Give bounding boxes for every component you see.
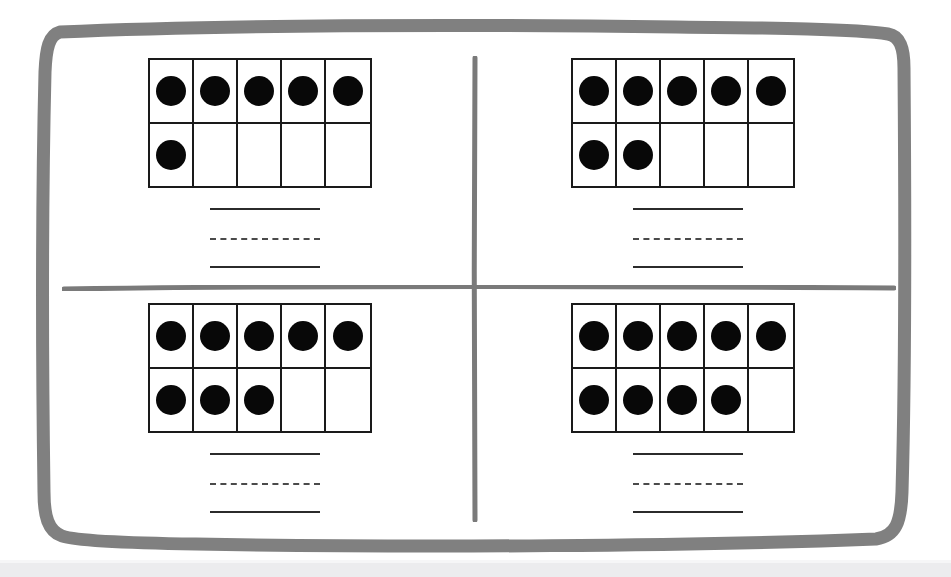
ten-frame-cell [573,124,617,186]
problem-total: 7 [570,267,571,268]
counter-dot [579,385,609,415]
ten-frame-cell [617,60,661,122]
counter-dot [711,385,741,415]
ten-frame-top-row [150,305,370,369]
ten-frame-bottom-row [573,124,793,186]
counter-dot [333,76,363,106]
ten-frame-cell [238,369,282,431]
counter-dot [288,76,318,106]
ten-frame-top-row [573,305,793,369]
ten-frame-cell [194,369,238,431]
ten-frame-cell [282,305,326,367]
ten-frame-cell [238,305,282,367]
counter-dot [156,76,186,106]
counter-dot [667,385,697,415]
answer-blank-sum[interactable] [210,511,320,513]
ten-frame-bottom-row [573,369,793,431]
ten-frame-cell [150,124,194,186]
ten-frame-cell [326,60,370,122]
ten-frame-cell [573,60,617,122]
counter-dot-empty [711,140,741,170]
answer-spacer [210,240,320,266]
ten-frame-cell [705,305,749,367]
counter-dot [244,321,274,351]
ten-frame-cell [617,369,661,431]
ten-frame-bottom-row [150,124,370,186]
counter-dot [623,385,653,415]
counter-dot [623,76,653,106]
answer-spacer [210,485,320,511]
counter-dot [756,76,786,106]
ten-frame-cell-empty [238,124,282,186]
answer-lines [210,453,320,513]
ten-frame-cell [749,305,793,367]
counter-dot-empty [288,385,318,415]
ten-frame-cell [661,60,705,122]
ten-frame-cell-empty [661,124,705,186]
ten-frame-cell [705,60,749,122]
counter-dot [156,321,186,351]
ten-frame [571,58,795,188]
counter-dot [200,321,230,351]
counter-dot [579,76,609,106]
counter-dot-empty [756,140,786,170]
ten-frame-cell-empty [705,124,749,186]
ten-frame-cell [326,305,370,367]
ten-frame [571,303,795,433]
problem-bottom-left: 8 [148,303,372,513]
answer-blank-sum[interactable] [633,511,743,513]
answer-spacer [633,210,743,238]
answer-blank-sum[interactable] [210,266,320,268]
counter-dot [200,385,230,415]
counter-dot-empty [288,140,318,170]
problem-total: 6 [147,267,148,268]
ten-frame [148,58,372,188]
counter-dot [623,140,653,170]
ten-frame-cell-empty [326,124,370,186]
answer-lines [633,453,743,513]
ten-frame-cell [617,305,661,367]
answer-spacer [210,455,320,483]
ten-frame-cell-empty [326,369,370,431]
ten-frame-top-row [150,60,370,124]
problem-total: 9 [570,512,571,513]
answer-lines [210,208,320,268]
counter-dot [200,76,230,106]
ten-frame-cell [150,369,194,431]
ten-frame-cell [573,305,617,367]
ten-frame-cell [150,305,194,367]
ten-frame-cell-empty [749,124,793,186]
ten-frame-cell [617,124,661,186]
ten-frame-cell [661,369,705,431]
counter-dot-empty [244,140,274,170]
answer-spacer [210,210,320,238]
counter-dot [288,321,318,351]
divider-vertical [471,56,478,522]
answer-spacer [633,485,743,511]
counter-dot [711,321,741,351]
counter-dot-empty [200,140,230,170]
ten-frame-cell [238,60,282,122]
counter-dot [579,321,609,351]
worksheet-page: 6 7 [0,0,951,577]
counter-dot-empty [333,140,363,170]
ten-frame [148,303,372,433]
answer-blank-sum[interactable] [633,266,743,268]
ten-frame-cell-empty [749,369,793,431]
counter-dot [333,321,363,351]
divider-horizontal [62,285,896,291]
counter-dot [667,76,697,106]
ten-frame-cell [194,60,238,122]
problem-bottom-right: 9 [571,303,795,513]
problem-top-left: 6 [148,58,372,268]
counter-dot [756,321,786,351]
counter-dot-empty [333,385,363,415]
counter-dot-empty [756,385,786,415]
counter-dot [244,76,274,106]
ten-frame-cell-empty [282,369,326,431]
counter-dot [156,140,186,170]
ten-frame-cell [749,60,793,122]
counter-dot [579,140,609,170]
scan-edge-band [0,563,951,577]
problem-top-right: 7 [571,58,795,268]
